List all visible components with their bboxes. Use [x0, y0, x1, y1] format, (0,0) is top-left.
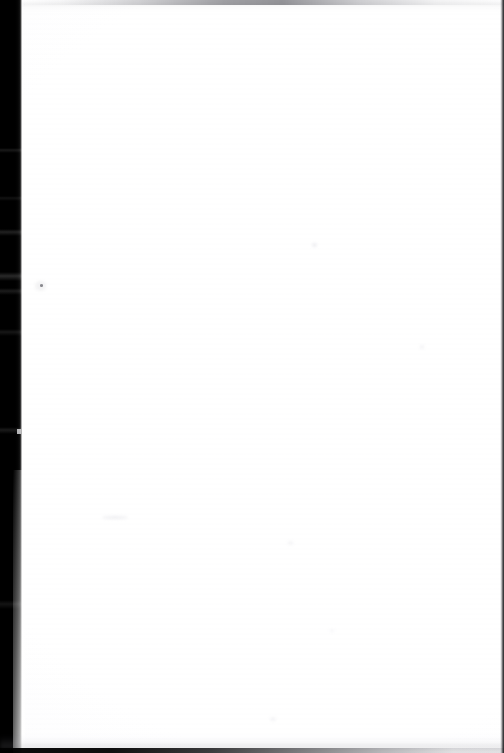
paper-blemish [330, 629, 334, 632]
paper-blemish [102, 516, 128, 519]
left-gutter-taper [13, 470, 25, 753]
right-edge-line [500, 0, 504, 753]
top-edge-smear [22, 0, 504, 5]
paper-blemish [312, 243, 317, 247]
paper-blemish [288, 541, 293, 545]
paper-surface [0, 0, 504, 753]
paper-blemish [420, 345, 424, 349]
left-gutter-nick [17, 429, 21, 434]
bottom-edge-line [0, 748, 504, 753]
scanned-page [0, 0, 504, 753]
dust-speck [40, 284, 43, 287]
paper-blemish [270, 717, 276, 721]
